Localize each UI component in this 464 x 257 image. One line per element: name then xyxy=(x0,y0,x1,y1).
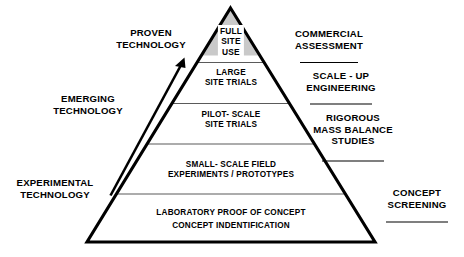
label-commercial-assessment: COMMERCIAL ASSESSMENT xyxy=(295,28,363,51)
tier-pilot-scale-site-trials: PILOT- SCALE SITE TRIALS xyxy=(202,110,261,129)
label-rigorous-mass-balance: RIGOROUS MASS BALANCE STUDIES xyxy=(313,112,393,147)
label-experimental-technology: EXPERIMENTAL TECHNOLOGY xyxy=(17,177,94,200)
label-concept-screening: CONCEPT SCREENING xyxy=(388,187,447,210)
tier-full-site-use: FULL SITE USE xyxy=(218,25,244,59)
pyramid-diagram: FULL SITE USE LARGE SITE TRIALS PILOT- S… xyxy=(0,0,464,257)
tier-large-site-trials: LARGE SITE TRIALS xyxy=(205,68,257,87)
label-emerging-technology: EMERGING TECHNOLOGY xyxy=(53,93,123,116)
label-proven-technology: PROVEN TECHNOLOGY xyxy=(116,27,186,50)
tier-small-scale-field: SMALL- SCALE FIELD EXPERIMENTS / PROTOTY… xyxy=(168,160,294,179)
tier-laboratory-proof: LABORATORY PROOF OF CONCEPT CONCEPT INDE… xyxy=(156,207,305,232)
label-scale-up-engineering: SCALE - UP ENGINEERING xyxy=(306,70,375,93)
